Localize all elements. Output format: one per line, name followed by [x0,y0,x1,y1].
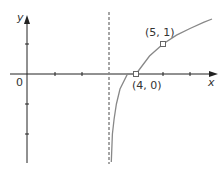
graph-canvas: y x 0 (4, 0) (5, 1) [0,0,221,177]
y-axis-label: y [16,11,24,24]
y-axis-arrow-icon [24,15,30,24]
point-5-1 [161,42,166,47]
graph-figure: y x 0 (4, 0) (5, 1) [0,0,221,177]
point-label-5-1: (5, 1) [145,26,175,39]
origin-label: 0 [16,76,23,89]
point-label-4-0: (4, 0) [132,79,162,92]
x-axis [10,71,218,77]
y-axis [24,15,30,163]
log-curve [111,19,212,162]
point-4-0 [134,72,139,77]
x-axis-label: x [207,76,215,89]
